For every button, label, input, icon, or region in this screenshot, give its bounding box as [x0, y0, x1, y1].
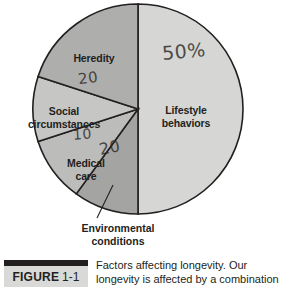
figure-badge-number: 1-1 — [62, 270, 79, 284]
figure-caption-text: Factors affecting longevity. Our longevi… — [96, 259, 288, 286]
figure-badge: FIGURE 1-1 — [4, 260, 88, 287]
figure-badge-body: FIGURE 1-1 — [4, 266, 88, 287]
pie-label-social-circumstances: Social circumstances — [20, 105, 108, 130]
figure-badge-word: FIGURE — [13, 270, 60, 284]
handwritten-note-social-circumstances: 10 — [72, 125, 92, 142]
pie-chart: Heredity Social circumstances Medical ca… — [0, 0, 290, 252]
figure-caption-row: FIGURE 1-1 Factors affecting longevity. … — [0, 256, 290, 288]
pie-label-heredity: Heredity — [58, 52, 130, 65]
pie-label-lifestyle-behaviors: Lifestyle behaviors — [150, 104, 222, 129]
handwritten-note-heredity: 20 — [77, 68, 99, 88]
pie-label-environmental-conditions: Environmental conditions — [48, 222, 188, 247]
figure-1-1: Heredity Social circumstances Medical ca… — [0, 0, 290, 288]
pie-label-medical-care: Medical care — [57, 157, 115, 182]
handwritten-note-lifestyle: 50% — [161, 38, 206, 64]
